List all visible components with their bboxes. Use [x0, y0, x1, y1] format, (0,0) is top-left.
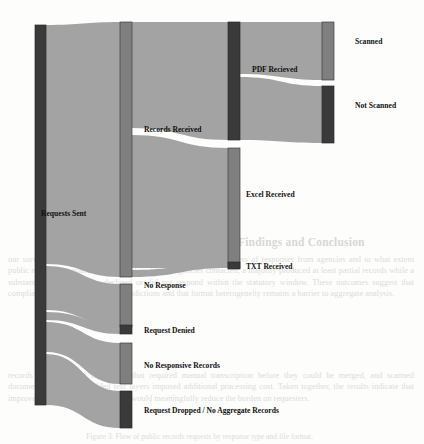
node-request-dropped[interactable] — [120, 391, 132, 428]
node-not-scanned[interactable] — [322, 86, 334, 143]
node-no-responsive-records[interactable] — [120, 343, 132, 384]
page-canvas: Findings and Conclusion our survey data,… — [0, 0, 424, 444]
label-records-received: Records Received — [144, 125, 202, 134]
link-records-received-to-excel-received — [132, 135, 228, 268]
sankey-diagram: Requests Sent Records Received No Respon… — [0, 0, 424, 444]
node-pdf-received[interactable] — [228, 22, 240, 140]
node-scanned[interactable] — [322, 22, 334, 80]
node-txt-received[interactable] — [228, 262, 240, 269]
link-records-received-to-pdf-received — [132, 22, 228, 140]
label-request-denied: Request Denied — [144, 326, 196, 335]
link-requests-sent-to-records-received — [46, 22, 120, 277]
node-no-response[interactable] — [120, 284, 132, 327]
label-scanned: Scanned — [355, 37, 383, 46]
node-records-received[interactable] — [120, 22, 132, 277]
label-request-dropped: Request Dropped / No Aggregate Records — [144, 406, 279, 415]
link-pdf-received-to-not-scanned — [240, 77, 322, 143]
node-excel-received[interactable] — [228, 148, 240, 268]
label-txt-received: TXT Received — [246, 262, 293, 271]
node-request-denied[interactable] — [120, 325, 132, 334]
label-excel-received: Excel Received — [246, 190, 295, 199]
label-requests-sent: Requests Sent — [41, 209, 87, 218]
label-no-responsive-records: No Responsive Records — [144, 361, 220, 370]
label-no-response: No Response — [144, 281, 186, 290]
label-pdf-received: PDF Recieved — [252, 65, 298, 74]
label-not-scanned: Not Scanned — [355, 101, 397, 110]
